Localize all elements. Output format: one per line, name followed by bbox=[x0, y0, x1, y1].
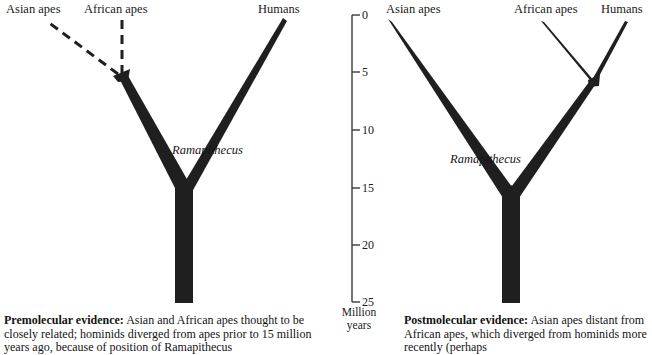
caption-postmolecular-lead: Postmolecular evidence: bbox=[404, 313, 528, 327]
right-trunk-branch bbox=[502, 202, 520, 303]
caption-premolecular-lead: Premolecular evidence: bbox=[4, 313, 124, 327]
right-hominine-stem-branch bbox=[506, 78, 597, 198]
right-humans-branch bbox=[592, 21, 628, 82]
caption-premolecular: Premolecular evidence: Asian and African… bbox=[4, 314, 326, 355]
caption-postmolecular: Postmolecular evidence: Asian apes dista… bbox=[404, 314, 652, 355]
right-tip-label-african-apes: African apes bbox=[514, 2, 578, 16]
right-african-apes-branch bbox=[541, 21, 595, 82]
right-asian-apes-branch bbox=[388, 19, 517, 198]
right-tip-label-asian-apes: Asian apes bbox=[386, 2, 441, 16]
right-tip-label-humans: Humans bbox=[601, 2, 643, 16]
right-taxon-label-ramapithecus: Ramapithecus bbox=[450, 152, 521, 166]
